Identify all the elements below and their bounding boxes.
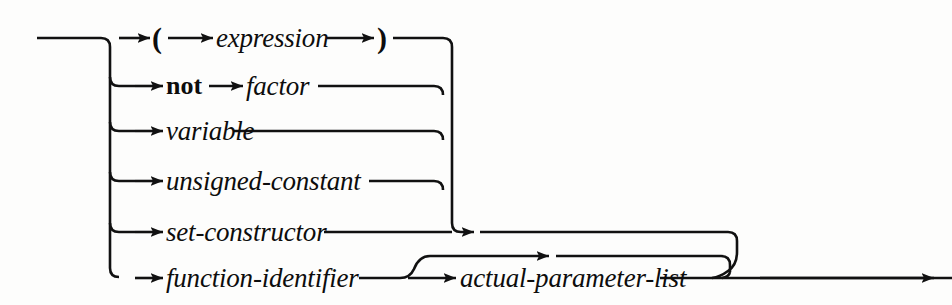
syntax-diagram: ( expression ) not factor variable unsig… xyxy=(0,0,952,305)
row3-tail-to-merge xyxy=(234,131,443,140)
nonterminal-function-identifier: function-identifier xyxy=(166,265,359,292)
nonterminal-actual-parameter-list: actual-parameter-list xyxy=(460,265,686,292)
nonterminal-unsigned-constant: unsigned-constant xyxy=(166,168,361,195)
upper-merged-rail xyxy=(480,232,737,252)
fanout-branch-uc xyxy=(110,172,135,181)
terminal-not: not xyxy=(166,73,202,99)
nonterminal-variable: variable xyxy=(166,118,254,145)
merge-elbow-into-row5 xyxy=(452,223,474,232)
fanout-branch-sc xyxy=(110,223,135,232)
terminal-close-paren: ) xyxy=(377,23,387,53)
row4-tail-to-merge xyxy=(369,181,443,190)
terminal-open-paren: ( xyxy=(152,23,162,53)
nonterminal-expression: expression xyxy=(216,25,328,52)
fanout-branch-not xyxy=(110,77,135,86)
fanout-spine xyxy=(101,38,119,277)
row2-tail-to-merge xyxy=(318,86,443,95)
railroad-track-graphic xyxy=(0,0,952,305)
nonterminal-set-constructor: set-constructor xyxy=(166,219,326,246)
fanout-branch-var xyxy=(110,122,135,131)
nonterminal-factor: factor xyxy=(246,73,309,100)
